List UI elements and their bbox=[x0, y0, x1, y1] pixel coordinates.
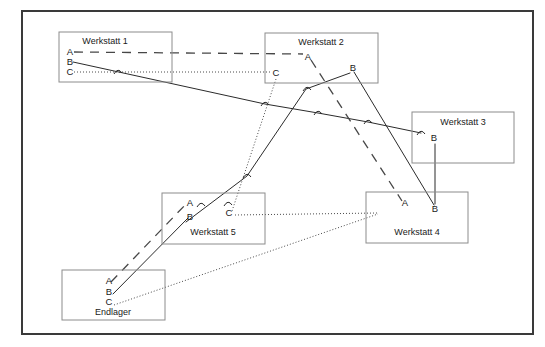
port-label-endlager-c[interactable]: C bbox=[106, 296, 113, 307]
node-werkstatt-3[interactable]: Werkstatt 3B bbox=[412, 112, 514, 163]
hop-8-icon bbox=[224, 202, 232, 206]
port-label-werkstatt-2-c[interactable]: C bbox=[273, 67, 280, 78]
port-label-werkstatt-2-b[interactable]: B bbox=[350, 62, 356, 73]
port-label-werkstatt-1-c[interactable]: C bbox=[67, 66, 74, 77]
route-c-w5-w4 bbox=[235, 213, 378, 215]
route-b-w2-w4 bbox=[354, 72, 434, 205]
port-label-werkstatt-2-a[interactable]: A bbox=[305, 51, 312, 62]
line-hop-markers bbox=[114, 70, 425, 207]
port-label-werkstatt-5-b[interactable]: B bbox=[187, 211, 193, 222]
port-label-endlager-a[interactable]: A bbox=[106, 275, 113, 286]
node-title-werkstatt-2: Werkstatt 2 bbox=[298, 37, 343, 47]
port-label-werkstatt-5-c[interactable]: C bbox=[226, 207, 233, 218]
route-b-endlager-w5 bbox=[113, 218, 188, 294]
hop-7-icon bbox=[197, 203, 205, 207]
node-werkstatt-4[interactable]: Werkstatt 4AB bbox=[366, 192, 468, 243]
diagram-canvas: Werkstatt 1ABCWerkstatt 2ABCWerkstatt 3B… bbox=[0, 0, 545, 347]
route-b-w5-w2 bbox=[186, 73, 350, 222]
node-title-werkstatt-5: Werkstatt 5 bbox=[190, 227, 235, 237]
port-label-werkstatt-4-b[interactable]: B bbox=[432, 203, 438, 214]
route-c-endlager-w4 bbox=[114, 214, 378, 305]
werkstatt-flow-diagram: Werkstatt 1ABCWerkstatt 2ABCWerkstatt 3B… bbox=[0, 0, 545, 347]
node-title-werkstatt-1: Werkstatt 1 bbox=[82, 36, 127, 46]
port-label-werkstatt-3-b[interactable]: B bbox=[431, 132, 437, 143]
node-werkstatt-1[interactable]: Werkstatt 1ABC bbox=[59, 32, 172, 82]
port-label-werkstatt-5-a[interactable]: A bbox=[187, 197, 194, 208]
node-title-endlager: Endlager bbox=[95, 307, 131, 317]
nodes-layer: Werkstatt 1ABCWerkstatt 2ABCWerkstatt 3B… bbox=[59, 32, 514, 320]
route-a-w2-w4 bbox=[311, 60, 402, 201]
route-a-w1-w2 bbox=[74, 52, 303, 54]
port-label-werkstatt-4-a[interactable]: A bbox=[402, 197, 409, 208]
routes-layer bbox=[73, 52, 435, 305]
node-endlager[interactable]: EndlagerABC bbox=[62, 270, 165, 320]
node-title-werkstatt-3: Werkstatt 3 bbox=[440, 117, 485, 127]
diagram-frame bbox=[22, 11, 533, 334]
node-title-werkstatt-4: Werkstatt 4 bbox=[394, 227, 439, 237]
route-c-w2-w5 bbox=[232, 79, 276, 211]
